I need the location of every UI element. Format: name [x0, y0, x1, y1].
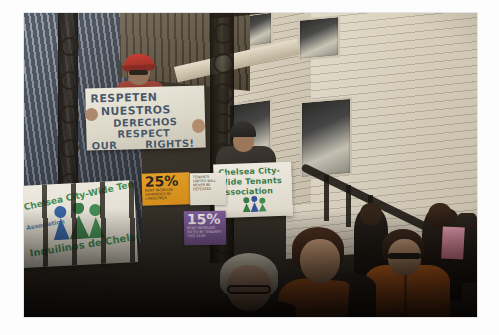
window-upper-right [298, 15, 340, 61]
poster-15-percent-value: 15% [187, 213, 223, 227]
poster-15-percent-body: RENT INCREASE FACED BY TENANTS THIS YEAR [187, 226, 223, 239]
jacket-zipper [404, 271, 407, 317]
banner-chelsea-tenants: Chelsea City-Wide Tenants Association In… [24, 180, 138, 268]
screenshot-root: RESPETEN NUESTROS DERECHOS RESPECT OUR R… [0, 0, 499, 335]
hand-right [192, 119, 205, 133]
sign-line-5: OUR RIGHTS! [92, 138, 201, 152]
hand-left [85, 108, 98, 121]
poster-white-slogan: TENANTS UNITED WILL NEVER BE DEFEATED [190, 173, 227, 206]
banner-railing-overlay [24, 180, 138, 268]
background-figure-center-head [360, 203, 382, 225]
tenants-association-logo-icon [240, 196, 267, 213]
poster-25-percent-body: RENT INCREASE DEMANDED BY LANDLORDS [145, 187, 187, 200]
orange-jacket-glasses [388, 253, 421, 259]
sign-line-5-right: RIGHTS! [121, 138, 195, 151]
sign-line-5-left: OUR [92, 140, 118, 152]
background-figure-right-head [428, 203, 452, 229]
sign-respect-our-rights: RESPETEN NUESTROS DERECHOS RESPECT OUR R… [85, 85, 206, 150]
shawl-woman-face [300, 239, 340, 283]
poster-25-percent: 25% RENT INCREASE DEMANDED BY LANDLORDS [141, 172, 190, 206]
sunglasses [129, 70, 148, 75]
poster-15-percent: 15% RENT INCREASE FACED BY TENANTS THIS … [184, 211, 227, 246]
glasses-woman-eyeglasses [227, 285, 271, 294]
poster-white-body: TENANTS UNITED WILL NEVER BE DEFEATED [193, 175, 223, 192]
pink-flyer [441, 226, 465, 259]
protest-photograph: RESPETEN NUESTROS DERECHOS RESPECT OUR R… [24, 13, 477, 317]
